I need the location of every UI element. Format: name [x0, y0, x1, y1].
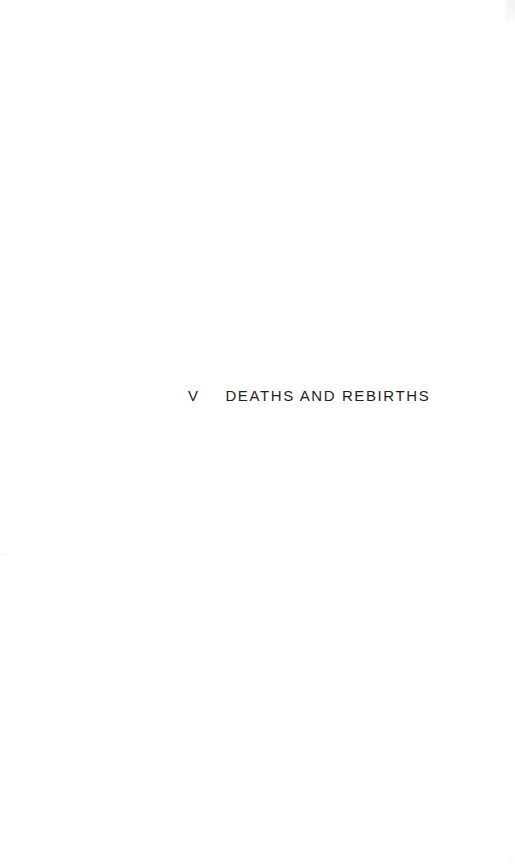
scan-edge-artifact-top-right: [506, 0, 515, 26]
part-number: V: [188, 387, 199, 405]
part-title: V DEATHS AND REBIRTHS: [188, 387, 430, 405]
part-title-page: V DEATHS AND REBIRTHS: [0, 0, 515, 867]
part-name: DEATHS AND REBIRTHS: [225, 387, 430, 405]
scan-edge-artifact-bottom-right: [509, 858, 513, 865]
scan-edge-artifact-left: [0, 553, 8, 556]
